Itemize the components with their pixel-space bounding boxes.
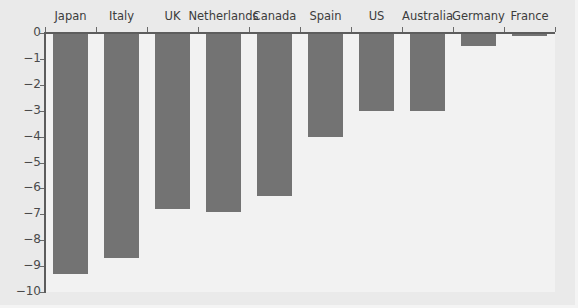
y-tick-label: −4 — [23, 129, 41, 144]
y-tick-label: −2 — [23, 77, 41, 92]
y-tick-label: −10 — [16, 284, 41, 299]
y-tick-label: −5 — [23, 155, 41, 170]
chart-plot-area: 0−1−2−3−4−5−6−7−8−9−10 JapanItalyUKNethe… — [45, 33, 555, 292]
bar[interactable] — [206, 33, 241, 212]
y-tick-label: −1 — [23, 51, 41, 66]
y-axis-spine — [44, 32, 46, 293]
x-tick-label: Japan — [54, 9, 86, 23]
bar[interactable] — [155, 33, 190, 209]
x-tick-label: UK — [165, 9, 181, 23]
y-tick-label: −9 — [23, 258, 41, 273]
y-tick-label: −7 — [23, 206, 41, 221]
bar[interactable] — [53, 33, 88, 274]
y-tick-label: 0 — [33, 25, 41, 40]
x-tick-label: Australia — [402, 9, 453, 23]
bar-chart-figure: 0−1−2−3−4−5−6−7−8−9−10 JapanItalyUKNethe… — [0, 0, 578, 308]
x-tick-label: Canada — [253, 9, 297, 23]
bar[interactable] — [461, 33, 496, 46]
x-tick-label: US — [369, 9, 385, 23]
x-tick-label: Germany — [452, 9, 505, 23]
x-tick-label: Netherlands — [188, 9, 258, 23]
bar[interactable] — [308, 33, 343, 137]
y-tick-label: −3 — [23, 103, 41, 118]
bar[interactable] — [359, 33, 394, 111]
bar[interactable] — [410, 33, 445, 111]
y-tick-label: −6 — [23, 180, 41, 195]
bar[interactable] — [257, 33, 292, 196]
x-tick-label: France — [510, 9, 548, 23]
bar[interactable] — [104, 33, 139, 258]
zero-baseline — [44, 32, 555, 34]
x-tick-mark — [555, 27, 556, 32]
y-tick-label: −8 — [23, 232, 41, 247]
x-tick-label: Italy — [109, 9, 134, 23]
x-tick-label: Spain — [309, 9, 341, 23]
